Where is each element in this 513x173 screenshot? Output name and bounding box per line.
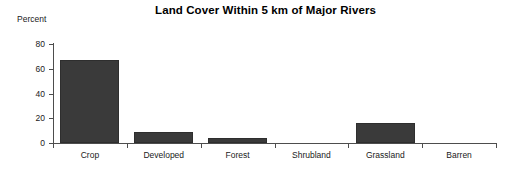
bar-grassland xyxy=(356,123,415,143)
y-axis-tick-label: 60 xyxy=(0,63,45,73)
x-axis-tick xyxy=(127,143,128,148)
chart-title: Land Cover Within 5 km of Major Rivers xyxy=(0,4,513,16)
x-axis-tick xyxy=(201,143,202,148)
x-axis-tick xyxy=(275,143,276,148)
x-axis-label-shrubland: Shrubland xyxy=(292,150,331,160)
y-axis-tick-label: 20 xyxy=(0,113,45,123)
bar-forest xyxy=(208,138,267,143)
y-axis-tick xyxy=(49,44,54,45)
y-axis-tick xyxy=(49,69,54,70)
land-cover-bar-chart: Land Cover Within 5 km of Major Rivers P… xyxy=(0,0,513,173)
x-axis-label-developed: Developed xyxy=(143,150,184,160)
x-axis-tick xyxy=(348,143,349,148)
y-axis-unit-label: Percent xyxy=(17,14,46,24)
x-axis-tick xyxy=(53,143,54,148)
y-axis-tick xyxy=(49,118,54,119)
x-axis-label-crop: Crop xyxy=(81,150,99,160)
bar-crop xyxy=(60,60,119,143)
x-axis-label-forest: Forest xyxy=(226,150,250,160)
x-axis-tick xyxy=(422,143,423,148)
x-axis-label-grassland: Grassland xyxy=(366,150,405,160)
y-axis-tick-label: 0 xyxy=(0,138,45,148)
bar-developed xyxy=(134,132,193,143)
y-axis-tick xyxy=(49,94,54,95)
y-axis-tick-label: 80 xyxy=(0,39,45,49)
x-axis-label-barren: Barren xyxy=(446,150,472,160)
y-axis-tick-label: 40 xyxy=(0,88,45,98)
x-axis-tick xyxy=(496,143,497,148)
